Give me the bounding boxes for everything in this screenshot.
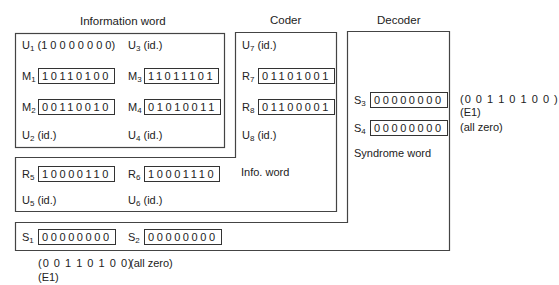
u5-label: U5 (id.) — [22, 194, 56, 207]
r7-bits: 01101001 — [258, 68, 335, 84]
coder-title: Coder — [270, 14, 301, 27]
s3-bits: 00000000 — [370, 92, 448, 108]
m1-bits: 10110100 — [38, 68, 115, 84]
decoder-box — [16, 32, 450, 251]
u6-label: U6 (id.) — [128, 194, 162, 207]
r8-bits: 01100001 — [258, 99, 335, 115]
decoder-title: Decoder — [377, 14, 420, 27]
m4-bits: 01010011 — [144, 99, 221, 115]
s4-value-annotation: (all zero) — [460, 121, 503, 134]
register-r7: R7 01101001 — [242, 68, 335, 84]
register-m4: M4 01010011 — [128, 99, 221, 115]
info-word-label: Info. word — [241, 166, 289, 179]
register-r8: R8 01100001 — [242, 99, 335, 115]
m2-bits: 00110010 — [38, 99, 115, 115]
u3-label: U3 (id.) — [128, 39, 162, 52]
register-s1: S1 00000000 — [22, 229, 116, 245]
u4-label: U4 (id.) — [128, 129, 162, 142]
s1-error-annotation: (E1) — [38, 271, 59, 284]
s2-bits: 00000000 — [144, 229, 222, 245]
coder-box — [16, 33, 337, 212]
s1-value-annotation: (0 0 1 1 0 1 0 0) — [38, 257, 133, 270]
register-m2: M2 00110010 — [22, 99, 115, 115]
r5-bits: 10000110 — [38, 166, 115, 182]
s4-bits: 00000000 — [370, 120, 448, 136]
m3-bits: 11011101 — [144, 68, 219, 84]
u1-label: U1 (1 0 0 0 0 0 0 0) — [22, 39, 115, 52]
r6-bits: 10001110 — [144, 166, 220, 182]
register-s3: S3 00000000 — [354, 92, 448, 108]
syndrome-word-label: Syndrome word — [354, 147, 431, 160]
register-m1: M1 10110100 — [22, 68, 115, 84]
s1-bits: 00000000 — [38, 229, 116, 245]
s3-value-annotation: (0 0 1 1 0 1 0 0 ) — [460, 93, 559, 106]
u2-label: U2 (id.) — [22, 129, 56, 142]
register-r5: R5 10000110 — [22, 166, 115, 182]
register-s2: S2 00000000 — [128, 229, 222, 245]
u8-label: U8 (id.) — [242, 129, 276, 142]
register-s4: S4 00000000 — [354, 120, 448, 136]
s2-value-annotation: (all zero) — [130, 257, 173, 270]
register-m3: M3 11011101 — [128, 68, 219, 84]
register-r6: R6 10001110 — [128, 166, 220, 182]
u7-label: U7 (id.) — [242, 39, 276, 52]
s3-error-annotation: (E1) — [460, 106, 481, 119]
information-word-title: Information word — [80, 15, 166, 28]
